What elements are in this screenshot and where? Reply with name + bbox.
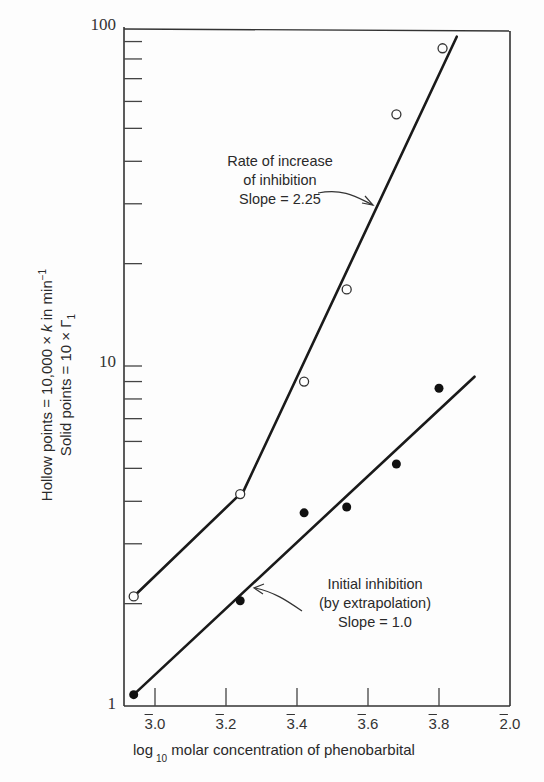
- solid-data-point: [435, 384, 444, 393]
- hollow-data-point: [392, 110, 401, 119]
- lower-line: [134, 377, 475, 695]
- y-tick-label-10: 10: [76, 352, 116, 372]
- annotation-upper-line2: of inhibition: [205, 171, 355, 190]
- hollow-data-point: [342, 285, 351, 294]
- y-axis-label: Hollow points = 10,000 × k in min−1 Soli…: [33, 170, 81, 600]
- solid-data-point: [129, 690, 138, 699]
- x-label-sub: 10: [156, 753, 167, 764]
- y-axis-ticks: [124, 42, 142, 604]
- solid-data-point: [236, 596, 245, 605]
- x-tick-label: 3.4: [272, 715, 322, 732]
- annotation-rate-of-increase: Rate of increase of inhibition Slope = 2…: [205, 152, 355, 209]
- x-tick-label: 3.8: [414, 715, 464, 732]
- solid-data-point: [342, 502, 351, 511]
- x-axis-label: log10 molar concentration of phenobarbit…: [133, 741, 415, 761]
- x-label-rest: molar concentration of phenobarbital: [167, 741, 415, 758]
- y-label-k: k: [38, 324, 55, 332]
- x-tick-label: 2.0: [485, 715, 535, 732]
- annotation-upper-line1: Rate of increase: [205, 152, 355, 171]
- y-label-sub: 1: [66, 314, 77, 320]
- y-label-line1: Hollow points = 10,000 × k in min−1: [33, 170, 56, 600]
- y-tick-label-100: 100: [76, 15, 116, 35]
- hollow-data-point: [300, 377, 309, 386]
- y-label-line1-pre: Hollow points = 10,000 ×: [38, 332, 55, 501]
- annotation-initial-inhibition: Initial inhibition (by extrapolation) Sl…: [295, 575, 455, 632]
- hollow-data-point: [129, 592, 138, 601]
- solid-data-point: [392, 459, 401, 468]
- annotation-upper-line3: Slope = 2.25: [205, 190, 355, 209]
- annotation-lower-line2: (by extrapolation): [295, 594, 455, 613]
- x-tick-label: 3.2: [201, 715, 251, 732]
- y-label-line2-pre: Solid points = 10 × Γ: [57, 319, 74, 456]
- x-tick-label: 3.6: [343, 715, 393, 732]
- x-axis-ticks: [155, 688, 439, 706]
- hollow-data-point: [236, 490, 245, 499]
- y-tick-label-1: 1: [76, 694, 116, 714]
- hollow-data-point: [438, 44, 447, 53]
- annotation-lower-line1: Initial inhibition: [295, 575, 455, 594]
- chart-canvas: [0, 0, 544, 782]
- y-label-sup: −1: [37, 269, 48, 280]
- solid-data-point: [300, 508, 309, 517]
- y-label-line2: Solid points = 10 × Γ1: [56, 170, 81, 600]
- x-label-log: log: [133, 741, 153, 758]
- annotation-lower-line3: Slope = 1.0: [295, 613, 455, 632]
- y-label-line1-post: in min: [38, 280, 55, 324]
- x-tick-label: 3.0: [130, 715, 180, 732]
- upper-line-low-segment: [134, 491, 244, 597]
